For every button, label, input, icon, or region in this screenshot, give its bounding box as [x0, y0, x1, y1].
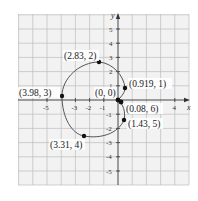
x-tick-label: -3: [72, 104, 78, 112]
point-0.919-1: [123, 86, 127, 90]
y-tick-label: -4: [106, 153, 112, 161]
y-tick-label: -1: [106, 111, 112, 119]
y-tick-label: 5: [109, 26, 113, 34]
point-label: (0, 0): [95, 88, 116, 99]
y-tick-label: 2: [109, 68, 113, 76]
point-label: (3.31, 4): [50, 140, 82, 151]
x-tick-label: -1: [100, 104, 106, 112]
point-label: (0.08, 6): [126, 104, 158, 115]
x-tick-label: -2: [86, 104, 92, 112]
point-label: (0.919, 1): [129, 79, 166, 90]
point-3.98-3: [60, 94, 64, 98]
y-tick-label: -3: [106, 139, 112, 147]
x-axis-label: x: [186, 103, 191, 112]
point-3.31-4: [82, 134, 86, 138]
y-axis-label: y: [110, 11, 115, 20]
y-tick-label: -5: [106, 168, 112, 176]
y-tick-label: 3: [109, 54, 113, 62]
point-1.43-5: [122, 118, 126, 122]
x-tick-label: -5: [43, 104, 49, 112]
polar-graph: y x 5 4 3 2 1 -1 -2 -3 -4 -5 -5 -3 -2 -1…: [0, 0, 198, 201]
point-label: (3.98, 3): [19, 88, 51, 99]
x-tick-label: 4: [173, 104, 177, 112]
y-tick-label: 4: [109, 40, 113, 48]
point-label: (1.43, 5): [128, 119, 160, 130]
point-label: (2.83, 2): [64, 51, 96, 62]
y-tick-label: -2: [106, 125, 112, 133]
point-0.08-6: [119, 100, 124, 105]
